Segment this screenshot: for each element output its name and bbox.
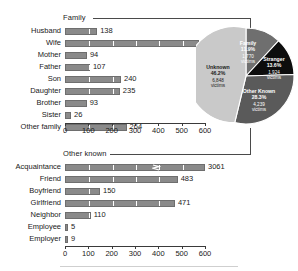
bar bbox=[65, 76, 121, 83]
bar-row: Friend483 bbox=[0, 174, 290, 184]
bar bbox=[65, 52, 87, 59]
bar-row-label: Son bbox=[0, 74, 61, 84]
axis-tick-label: 200 bbox=[105, 249, 118, 258]
bar bbox=[65, 200, 175, 207]
bar-row-label: Mother bbox=[0, 50, 61, 60]
other-known-leader-horizontal bbox=[110, 154, 251, 155]
bar-value-label: 138 bbox=[100, 26, 113, 36]
bar-row-label: Acquaintance bbox=[0, 162, 61, 172]
bar-value-label: 5 bbox=[71, 222, 75, 232]
bar-row: Sister26 bbox=[0, 110, 210, 120]
axis-tick-label: 300 bbox=[129, 249, 142, 258]
bar-row-label: Other family bbox=[0, 122, 61, 132]
bar-row-label: Neighbor bbox=[0, 210, 61, 220]
bar-row: Daughter235 bbox=[0, 86, 210, 96]
axis-tick-label: 600 bbox=[199, 249, 212, 258]
axis-tick-label: 0 bbox=[63, 249, 67, 258]
bar-value-label: 3061 bbox=[208, 162, 225, 172]
bar-value-label: 240 bbox=[124, 74, 137, 84]
other-known-leader-vertical bbox=[250, 128, 251, 154]
bar-value-label: 150 bbox=[103, 186, 116, 196]
other-known-rows: Acquaintance3061Friend483Boyfriend150Gir… bbox=[0, 162, 290, 246]
axis-tick-label: 100 bbox=[82, 249, 95, 258]
bar-row: Son240 bbox=[0, 74, 210, 84]
bar-value-label: 471 bbox=[178, 198, 191, 208]
bar-row: Husband138 bbox=[0, 26, 210, 36]
bar-wrap: 471 bbox=[65, 198, 295, 208]
bar-value-label: 9 bbox=[71, 234, 75, 244]
bar-wrap: 5 bbox=[65, 222, 295, 232]
bar-row-label: Girlfriend bbox=[0, 198, 61, 208]
bar-row: Mother94 bbox=[0, 50, 210, 60]
bar-row: Acquaintance3061 bbox=[0, 162, 290, 172]
axis-tick-label: 300 bbox=[129, 126, 142, 135]
bar bbox=[65, 40, 199, 47]
other-known-panel-title: Other known bbox=[63, 149, 107, 158]
axis-tick-label: 100 bbox=[82, 126, 95, 135]
family-panel-title: Family bbox=[63, 13, 86, 22]
bar-row: Neighbor110 bbox=[0, 210, 290, 220]
other-known-bar-chart-panel: Other known Acquaintance3061Friend483Boy… bbox=[0, 143, 298, 271]
bar-row: Father107 bbox=[0, 62, 210, 72]
bar bbox=[65, 100, 87, 107]
axis-tick-label: 500 bbox=[175, 126, 188, 135]
axis-tick-label: 400 bbox=[152, 249, 165, 258]
bar-row-label: Brother bbox=[0, 98, 61, 108]
axis-tick-label: 400 bbox=[152, 126, 165, 135]
bar-wrap: 9 bbox=[65, 234, 295, 244]
pie-slice-unknown bbox=[196, 27, 246, 123]
bar bbox=[65, 236, 68, 243]
bar-value-label: 93 bbox=[90, 98, 98, 108]
bar-value-label: 94 bbox=[90, 50, 98, 60]
axis-tick-label: 200 bbox=[105, 126, 118, 135]
bar-value-label: 107 bbox=[93, 62, 106, 72]
relationship-pie-chart: Family 11.9% 1,770 victims Stranger 13.6… bbox=[196, 26, 296, 126]
family-leader-horizontal bbox=[93, 18, 251, 19]
bar-row-label: Friend bbox=[0, 174, 61, 184]
bar-row-label: Employer bbox=[0, 234, 61, 244]
bar bbox=[65, 112, 71, 119]
bar-row: Employer9 bbox=[0, 234, 290, 244]
bar-wrap: 110 bbox=[65, 210, 295, 220]
bar-wrap: 483 bbox=[65, 174, 295, 184]
bar-value-label: 235 bbox=[123, 86, 136, 96]
bar-row: Brother93 bbox=[0, 98, 210, 108]
bar bbox=[65, 64, 90, 71]
bar bbox=[65, 212, 91, 219]
bar-wrap: 150 bbox=[65, 186, 295, 196]
bar-row-label: Boyfriend bbox=[0, 186, 61, 196]
pie-svg bbox=[196, 26, 296, 126]
bar-value-label: 26 bbox=[74, 110, 82, 120]
axis-tick-label: 0 bbox=[63, 126, 67, 135]
bar-wrap: 3061 bbox=[65, 162, 295, 172]
axis-tick-label: 500 bbox=[175, 249, 188, 258]
figure-root: Family Husband138Wife573Mother94Father10… bbox=[0, 0, 298, 271]
bar-row-label: Sister bbox=[0, 110, 61, 120]
bar-row-label: Father bbox=[0, 62, 61, 72]
bar bbox=[65, 88, 120, 95]
bar-row-label: Daughter bbox=[0, 86, 61, 96]
family-rows: Husband138Wife573Mother94Father107Son240… bbox=[0, 26, 210, 134]
axis-tick-label: 600 bbox=[199, 126, 212, 135]
bar-value-label: 110 bbox=[94, 210, 106, 220]
bar-value-label: 483 bbox=[181, 174, 194, 184]
bar bbox=[65, 164, 205, 171]
bar-row: Wife573 bbox=[0, 38, 210, 48]
bar-row: Boyfriend150 bbox=[0, 186, 290, 196]
bar bbox=[65, 224, 68, 231]
bar bbox=[65, 176, 178, 183]
bar-row-label: Employee bbox=[0, 222, 61, 232]
bar-row-label: Wife bbox=[0, 38, 61, 48]
bar bbox=[65, 28, 97, 35]
footer-divider bbox=[60, 266, 238, 267]
bar-row: Employee5 bbox=[0, 222, 290, 232]
bar-row: Girlfriend471 bbox=[0, 198, 290, 208]
bar-row-label: Husband bbox=[0, 26, 61, 36]
bar bbox=[65, 188, 100, 195]
